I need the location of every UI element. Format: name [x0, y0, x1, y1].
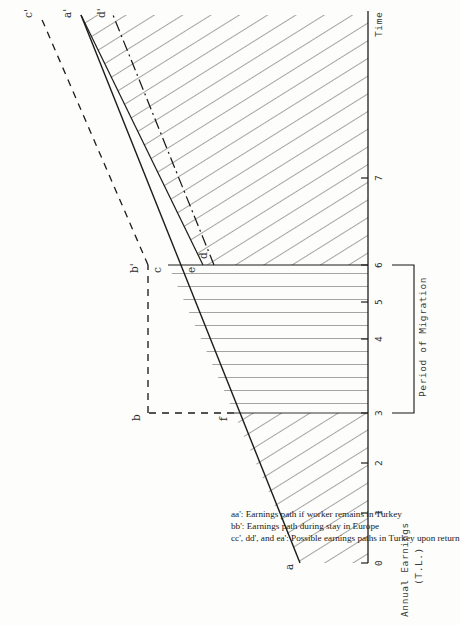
- x-axis-title: Time: [374, 12, 384, 37]
- x-tick-5: 5: [374, 299, 384, 305]
- x-tick-0: 0: [374, 560, 384, 566]
- point-label-a-prime: a': [62, 9, 73, 18]
- x-tick-2: 2: [374, 460, 384, 466]
- caption-line-2: bb': Earnings path during stay in Europe: [231, 520, 460, 532]
- point-label-a: a: [284, 564, 295, 570]
- point-label-e: e: [186, 267, 197, 273]
- x-tick-4: 4: [374, 336, 384, 342]
- point-label-d: d: [198, 252, 209, 259]
- point-label-f: f: [218, 417, 229, 421]
- caption-line-1: aa': Earnings path if worker remains in …: [231, 508, 460, 520]
- point-label-b: b: [131, 414, 142, 421]
- point-label-c-prime: c': [23, 9, 34, 18]
- figure-caption: aa': Earnings path if worker remains in …: [231, 508, 460, 545]
- migration-bracket: [392, 265, 414, 413]
- y-axis-title-line2: (T.L.): [414, 547, 424, 585]
- x-tick-6: 6: [374, 262, 384, 268]
- region-migration-foregone: [168, 265, 368, 413]
- region-post-return: [81, 15, 368, 265]
- x-tick-7: 7: [374, 175, 384, 181]
- migration-bracket-label: Period of Migration: [418, 277, 428, 397]
- caption-line-3: cc', dd', and ea': Possible earnings pat…: [231, 532, 460, 544]
- point-label-c: c: [152, 267, 163, 273]
- point-label-b-prime: b': [129, 263, 140, 273]
- x-tick-3: 3: [374, 410, 384, 416]
- point-label-d-prime: d': [96, 8, 107, 18]
